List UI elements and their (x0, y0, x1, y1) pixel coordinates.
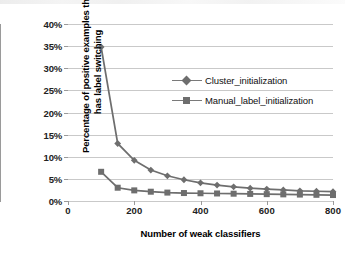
data-point-marker (231, 191, 237, 197)
legend-diamond-marker-icon (172, 74, 202, 86)
data-point-marker (164, 172, 171, 179)
y-tick-mark (64, 90, 68, 91)
y-tick-label: 0% (49, 196, 62, 207)
data-point-marker (230, 183, 237, 190)
x-tick-label: 800 (325, 205, 341, 216)
data-point-marker (247, 191, 253, 197)
chart-container: 0%5%10%15%20%25%30%35%40% Number of weak… (0, 0, 345, 253)
series-line-cluster_initialization (101, 47, 333, 192)
data-point-marker (131, 187, 137, 193)
y-axis-title: Percentage of positive examples that has… (80, 0, 104, 160)
y-tick-mark (64, 135, 68, 136)
data-point-marker (198, 190, 204, 196)
y-axis-title-wrapper: Percentage of positive examples that has… (66, 20, 80, 200)
y-tick-mark (64, 157, 68, 158)
y-axis-tick-labels: 0%5%10%15%20%25%30%35%40% (0, 0, 62, 253)
x-tick-label: 0 (65, 205, 70, 216)
y-tick-label: 10% (44, 151, 62, 162)
data-point-marker (164, 190, 170, 196)
y-tick-mark (64, 68, 68, 69)
y-tick-label: 35% (44, 41, 62, 52)
x-tick-label: 200 (126, 205, 142, 216)
legend-square-marker-icon (172, 94, 202, 106)
data-point-marker (280, 191, 286, 197)
y-tick-label: 20% (44, 107, 62, 118)
legend-label-cluster-initialization: Cluster_initialization (205, 75, 287, 86)
y-tick-mark (64, 46, 68, 47)
y-tick-mark (64, 113, 68, 114)
data-point-marker (214, 190, 220, 196)
data-point-marker (297, 192, 303, 198)
y-tick-mark (64, 179, 68, 180)
y-tick-mark (64, 24, 68, 25)
x-tick-label: 600 (259, 205, 275, 216)
x-axis-title: Number of weak classifiers (68, 228, 333, 239)
y-tick-label: 15% (44, 129, 62, 140)
y-tick-label: 5% (49, 173, 62, 184)
legend-item-cluster-initialization[interactable]: Cluster_initialization (172, 70, 313, 90)
data-point-marker (148, 189, 154, 195)
y-tick-label: 25% (44, 85, 62, 96)
y-tick-label: 30% (44, 63, 62, 74)
plot-area (68, 24, 333, 201)
data-point-marker (264, 191, 270, 197)
chart-legend: Cluster_initialization Manual_label_init… (172, 70, 313, 110)
data-point-marker (98, 169, 104, 175)
data-point-marker (181, 176, 188, 183)
data-point-marker (115, 185, 121, 191)
x-tick-label: 400 (193, 205, 209, 216)
series-layer (68, 24, 333, 201)
data-point-marker (181, 190, 187, 196)
data-point-marker (197, 179, 204, 186)
data-point-marker (247, 185, 254, 192)
data-point-marker (214, 182, 221, 189)
data-point-marker (313, 192, 319, 198)
y-tick-label: 40% (44, 19, 62, 30)
data-point-marker (330, 192, 336, 198)
legend-label-manual-label-initialization: Manual_label_initialization (205, 95, 313, 106)
legend-item-manual-label-initialization[interactable]: Manual_label_initialization (172, 90, 313, 110)
y-axis-line (0, 24, 1, 202)
